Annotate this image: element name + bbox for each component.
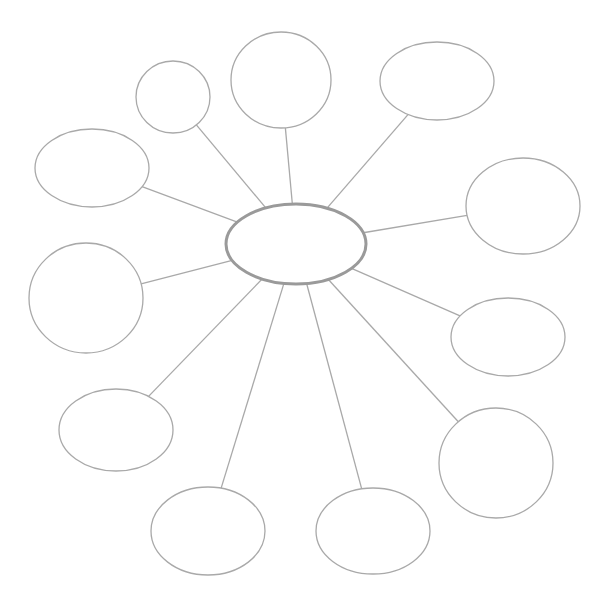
node-ellipse[interactable] [316, 488, 430, 574]
center-ellipse[interactable] [226, 204, 366, 284]
node-ellipse[interactable] [59, 389, 173, 471]
outer-node[interactable] [380, 42, 494, 120]
outer-node[interactable] [59, 389, 173, 471]
connector-line [142, 187, 237, 223]
outer-node[interactable] [151, 487, 265, 575]
node-ellipse[interactable] [466, 158, 580, 254]
connector-line [328, 279, 458, 421]
outer-node[interactable] [231, 32, 331, 128]
node-ellipse[interactable] [151, 487, 265, 575]
center-node[interactable] [226, 204, 366, 284]
node-ellipse[interactable] [136, 61, 210, 133]
bubble-map-diagram [0, 0, 612, 604]
node-ellipse[interactable] [35, 129, 149, 207]
connector-line [307, 284, 362, 489]
connector-line [196, 125, 265, 208]
outer-node[interactable] [466, 158, 580, 254]
connector-line [327, 115, 408, 209]
connector-line [141, 260, 232, 283]
outer-nodes [29, 32, 580, 575]
outer-node[interactable] [316, 488, 430, 574]
node-ellipse[interactable] [231, 32, 331, 128]
node-ellipse[interactable] [439, 408, 553, 518]
node-ellipse[interactable] [451, 298, 565, 376]
outer-node[interactable] [29, 243, 143, 353]
outer-node[interactable] [439, 408, 553, 518]
outer-node[interactable] [35, 129, 149, 207]
connector-line [352, 268, 460, 316]
node-ellipse[interactable] [380, 42, 494, 120]
connector-line [285, 128, 292, 204]
outer-node[interactable] [136, 61, 210, 133]
connector-line [221, 283, 284, 488]
connector-line [363, 215, 467, 232]
connector-line [149, 279, 263, 396]
node-ellipse[interactable] [29, 243, 143, 353]
connector-lines [141, 115, 467, 489]
outer-node[interactable] [451, 298, 565, 376]
